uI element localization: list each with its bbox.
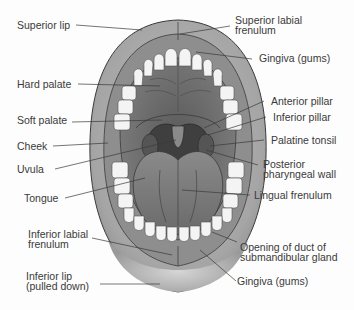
label-anterior-pillar: Anterior pillar bbox=[271, 96, 333, 106]
label-hard-palate: Hard palate bbox=[17, 79, 71, 89]
label-gingiva-lower: Gingiva (gums) bbox=[237, 276, 308, 286]
mouth-illustration bbox=[0, 0, 354, 310]
label-inferior-labial-frenulum: Inferior labial frenulum bbox=[28, 229, 88, 249]
mouth-anatomy-diagram: Superior lip Hard palate Soft palate Che… bbox=[0, 0, 354, 310]
label-opening-submandibular-duct: Opening of duct of submandibular gland bbox=[240, 242, 337, 262]
label-palatine-tonsil: Palatine tonsil bbox=[271, 135, 336, 145]
label-posterior-pharyngeal-wall: Posterior pharyngeal wall bbox=[263, 159, 336, 179]
label-superior-lip: Superior lip bbox=[17, 20, 70, 30]
label-inferior-lip: Inferior lip (pulled down) bbox=[26, 271, 89, 291]
label-gingiva-upper: Gingiva (gums) bbox=[259, 53, 330, 63]
label-soft-palate: Soft palate bbox=[17, 115, 67, 125]
label-uvula: Uvula bbox=[17, 164, 44, 174]
label-superior-labial-frenulum: Superior labial frenulum bbox=[235, 15, 302, 35]
label-lingual-frenulum: Lingual frenulum bbox=[254, 190, 332, 200]
label-cheek: Cheek bbox=[17, 141, 47, 151]
label-inferior-pillar: Inferior pillar bbox=[273, 112, 331, 122]
label-tongue: Tongue bbox=[24, 193, 58, 203]
